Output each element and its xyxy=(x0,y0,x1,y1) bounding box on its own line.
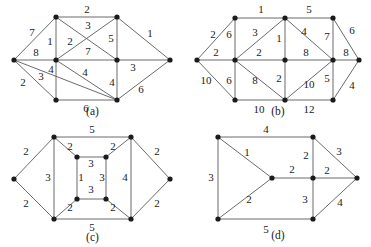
graph-panel-a: 7 2 3 1 2 5 1 8 7 3 2 3 4 4 4 6 6 xyxy=(0,0,185,123)
graph-vertex xyxy=(114,97,119,102)
weight-label: 6 xyxy=(349,24,355,36)
weight-label: 4 xyxy=(301,25,307,37)
graph-vertex xyxy=(330,15,335,20)
weight-label: 1 xyxy=(276,32,282,44)
weight-label: 4 xyxy=(82,66,88,78)
weight-label: 2 xyxy=(67,35,73,47)
weight-label: 3 xyxy=(252,26,258,38)
weight-label: 3 xyxy=(336,145,342,157)
graph-b-vertices xyxy=(194,15,361,102)
weight-label: 7 xyxy=(85,45,91,57)
graph-vertex xyxy=(310,175,315,180)
graph-vertex xyxy=(167,176,172,181)
weight-label: 3 xyxy=(85,19,91,31)
weight-label: 8 xyxy=(252,74,258,86)
graph-vertex xyxy=(53,97,58,102)
graph-vertex xyxy=(232,15,237,20)
weight-label: 1 xyxy=(244,146,250,158)
weight-label: 4 xyxy=(337,196,343,208)
graph-a-weights: 7 2 3 1 2 5 1 8 7 3 2 3 4 4 4 6 6 xyxy=(20,3,153,114)
weight-label: 6 xyxy=(226,74,232,86)
weight-label: 10 xyxy=(304,78,316,90)
weight-label: 2 xyxy=(324,164,330,176)
weight-label: 2 xyxy=(246,193,252,205)
weight-label: 2 xyxy=(67,201,73,213)
weight-label: 3 xyxy=(45,171,51,183)
panel-caption-c: (c) xyxy=(0,231,185,243)
weight-label: 3 xyxy=(88,183,94,195)
weight-label: 2 xyxy=(256,46,262,58)
weight-label: 1 xyxy=(78,171,84,183)
graph-panel-c: 5 2 2 2 2 2 2 3 3 1 3 4 3 2 2 5 xyxy=(0,123,185,247)
graph-vertex xyxy=(167,57,172,62)
graph-vertex xyxy=(232,57,237,62)
graph-vertex xyxy=(282,15,287,20)
graph-panel-d: 4 1 3 2 3 2 2 2 3 4 5 (d) xyxy=(185,123,371,247)
weight-label: 4 xyxy=(48,63,54,75)
weight-label: 8 xyxy=(303,46,309,58)
weight-label: 2 xyxy=(23,145,29,157)
graph-vertex xyxy=(194,57,199,62)
graph-vertex xyxy=(330,57,335,62)
weight-label: 2 xyxy=(67,140,73,152)
weight-label: 7 xyxy=(29,26,35,38)
graph-vertex xyxy=(53,14,58,19)
graph-vertex xyxy=(215,216,220,221)
weight-label: 5 xyxy=(108,32,114,44)
graph-vertex xyxy=(11,57,16,62)
graph-vertex xyxy=(103,196,108,201)
graph-vertex xyxy=(282,97,287,102)
weight-label: 3 xyxy=(208,171,214,183)
weight-label: 6 xyxy=(226,28,232,40)
graph-vertex xyxy=(103,154,108,159)
weight-label: 3 xyxy=(302,193,308,205)
graph-c-edges xyxy=(14,137,170,219)
graph-vertex xyxy=(282,57,287,62)
graph-vertex xyxy=(310,216,315,221)
graph-c-weights: 5 2 2 2 2 2 2 3 3 1 3 4 3 2 2 5 xyxy=(23,123,160,233)
weight-label: 3 xyxy=(130,61,136,73)
graph-panel-b: 2 1 5 6 6 3 4 7 2 2 1 8 8 10 6 8 2 10 5 … xyxy=(185,0,371,123)
graph-vertex xyxy=(232,97,237,102)
weight-label: 1 xyxy=(47,35,53,47)
weight-label: 2 xyxy=(84,3,90,15)
panel-caption-d: (d) xyxy=(185,229,371,241)
weight-label: 2 xyxy=(154,145,160,157)
weight-label: 2 xyxy=(210,28,216,40)
weight-label: 2 xyxy=(23,197,29,209)
weight-label: 5 xyxy=(89,123,95,135)
graph-vertex xyxy=(53,57,58,62)
weight-label: 2 xyxy=(110,140,116,152)
weight-label: 6 xyxy=(138,83,144,95)
weight-label: 10 xyxy=(201,74,213,86)
graph-vertex xyxy=(128,216,133,221)
graph-vertex xyxy=(74,196,79,201)
graph-vertex xyxy=(330,97,335,102)
graph-c-canvas: 5 2 2 2 2 2 2 3 3 1 3 4 3 2 2 5 xyxy=(0,123,185,247)
graph-vertex xyxy=(74,154,79,159)
weight-label: 3 xyxy=(99,171,105,183)
weight-label: 3 xyxy=(88,157,94,169)
weight-label: 3 xyxy=(38,70,44,82)
graph-vertex xyxy=(354,175,359,180)
weight-label: 2 xyxy=(154,197,160,209)
weight-label: 2 xyxy=(276,72,282,84)
graph-vertex xyxy=(269,175,274,180)
weight-label: 5 xyxy=(306,3,312,15)
panel-caption-a: (a) xyxy=(0,105,185,117)
graph-vertex xyxy=(11,176,16,181)
graph-vertex xyxy=(128,134,133,139)
weight-label: 2 xyxy=(213,46,219,58)
graph-d-weights: 4 1 3 2 3 2 2 2 3 4 5 xyxy=(208,123,343,235)
weight-label: 4 xyxy=(263,123,269,135)
weight-label: 4 xyxy=(109,76,115,88)
weight-label: 2 xyxy=(110,201,116,213)
graph-vertex xyxy=(356,57,361,62)
graph-vertex xyxy=(114,14,119,19)
weight-label: 4 xyxy=(122,171,128,183)
weight-label: 1 xyxy=(147,27,153,39)
graph-vertex xyxy=(51,134,56,139)
weight-label: 2 xyxy=(20,76,26,88)
graph-c-vertices xyxy=(11,134,172,221)
weight-label: 8 xyxy=(33,46,39,58)
